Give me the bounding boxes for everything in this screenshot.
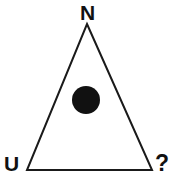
vertex-label-bottom-right: ? <box>155 152 169 175</box>
filled-circle-icon <box>72 86 100 114</box>
vertex-label-bottom-left: U <box>4 153 19 174</box>
diagram-canvas: N U ? <box>0 0 175 184</box>
vertex-label-top: N <box>0 2 175 23</box>
triangle-diagram-svg <box>0 0 175 184</box>
